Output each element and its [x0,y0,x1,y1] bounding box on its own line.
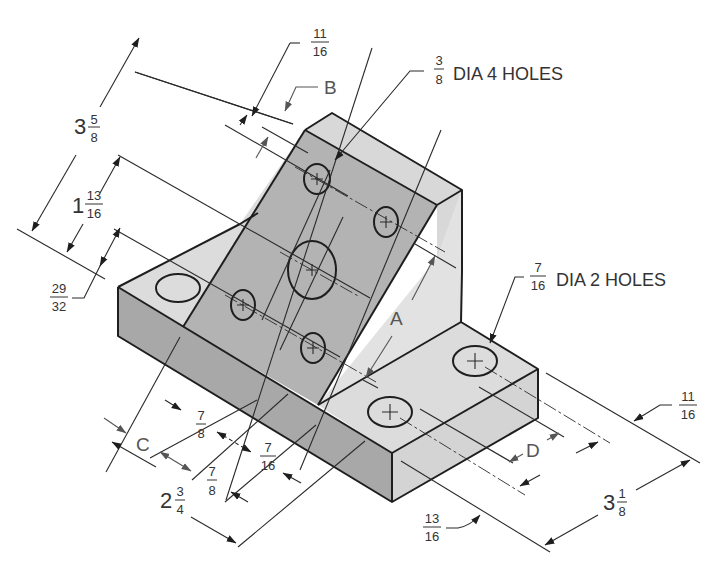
label-d: D [526,440,540,461]
dim-edge-offset-front: 7 16 [260,440,276,473]
svg-text:4: 4 [176,502,183,517]
svg-text:13: 13 [425,511,439,526]
svg-text:3: 3 [603,490,615,515]
svg-text:11: 11 [681,389,695,404]
bracket-drawing: 3 5 8 11 16 B 3 8 DIA 4 HOLES 1 13 16 [0,0,718,575]
note-base-holes: 7 16 DIA 2 HOLES [530,260,666,293]
dim-lower-offset: 29 32 [50,281,68,314]
svg-text:7: 7 [197,408,204,423]
svg-text:7: 7 [534,260,541,275]
label-b: B [324,77,337,98]
svg-text:7: 7 [208,464,215,479]
dim-overall-height-incline: 3 5 8 [74,112,100,145]
dim-hole-spacing-b: 7 8 [207,464,217,498]
dim-width-base-front: 2 3 4 [160,484,185,517]
svg-text:16: 16 [531,278,545,293]
label-c: C [136,434,150,455]
svg-text:16: 16 [87,206,101,221]
dim-hole-spacing-a: 7 8 [196,408,206,441]
svg-text:8: 8 [90,130,97,145]
svg-text:3: 3 [176,484,183,499]
dim-top-offset: 11 16 [311,26,329,59]
svg-text:5: 5 [90,112,97,127]
svg-text:16: 16 [261,458,275,473]
dim-base-hole-offset-front: 13 16 [423,511,441,544]
svg-text:16: 16 [681,407,695,422]
dim-hole-spacing-incline: 1 13 16 [72,188,103,221]
svg-text:13: 13 [87,188,101,203]
svg-text:16: 16 [425,529,439,544]
dim-base-depth: 3 1 8 [603,486,627,519]
svg-text:8: 8 [435,72,442,87]
svg-text:DIA 2 HOLES: DIA 2 HOLES [556,270,666,290]
svg-text:8: 8 [208,483,215,498]
dim-base-hole-offset-right: 11 16 [679,389,697,422]
svg-text:1: 1 [618,486,625,501]
svg-text:8: 8 [197,426,204,441]
svg-text:3: 3 [435,53,442,68]
svg-text:8: 8 [618,504,625,519]
label-a: A [390,308,403,329]
svg-text:11: 11 [313,26,327,41]
svg-text:29: 29 [52,281,66,296]
note-incline-holes: 3 8 DIA 4 HOLES [434,53,563,87]
svg-text:1: 1 [72,193,84,218]
svg-text:32: 32 [52,299,66,314]
svg-text:3: 3 [74,114,86,139]
svg-text:16: 16 [313,44,327,59]
svg-text:DIA 4 HOLES: DIA 4 HOLES [453,64,563,84]
svg-text:7: 7 [264,440,271,455]
svg-text:2: 2 [160,488,172,513]
